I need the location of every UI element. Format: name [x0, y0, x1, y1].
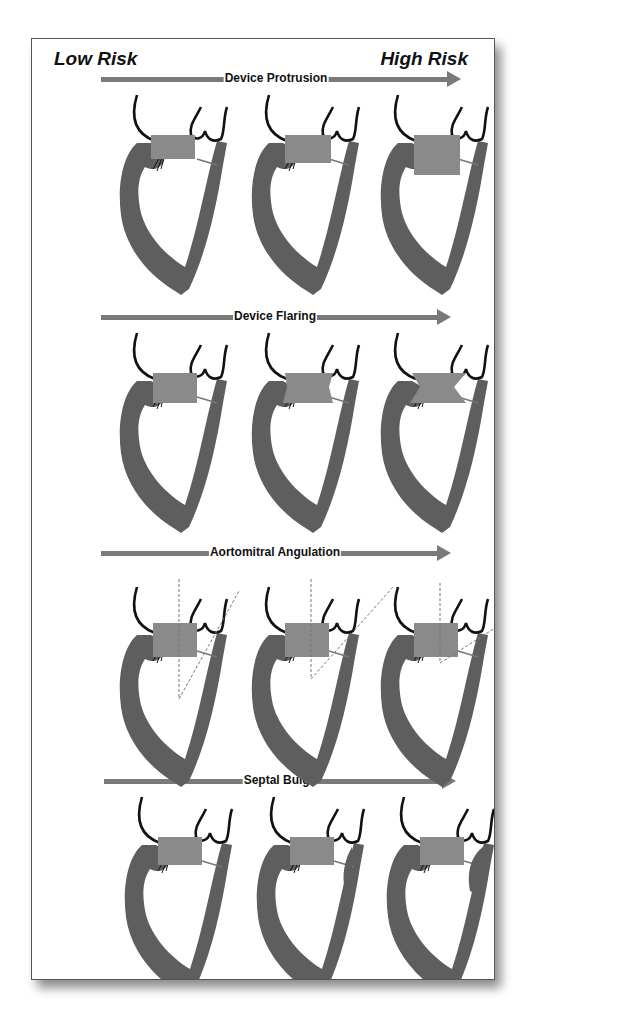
heart-diagrams [32, 39, 494, 979]
figure-frame: Low Risk High Risk Device Protrusion Dev… [31, 38, 495, 980]
device-block [151, 135, 195, 159]
caption-cropped [0, 1003, 631, 1014]
